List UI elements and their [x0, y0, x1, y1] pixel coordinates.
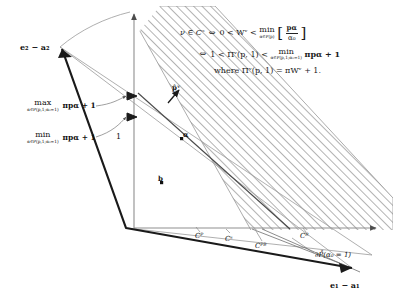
label-cone-r: Cᴿ	[300, 233, 309, 240]
formula-l1-mid: 0 < Wᵛ <	[219, 28, 256, 37]
min-operator: min α∈P(p,1;α₀=1)	[27, 131, 59, 144]
min-expression: πpα + 1	[63, 134, 96, 142]
annotation-min: min α∈P(p,1;α₀=1) πpα + 1	[27, 131, 96, 144]
label-e2-minus-a2: e₂ − a₂	[20, 43, 50, 51]
bracket-close: ]	[300, 27, 306, 39]
axis-tick-label-one: 1	[116, 133, 121, 141]
label-alpha: α	[183, 131, 188, 138]
formula-l2-iff: ⇔	[198, 49, 208, 58]
max-operator: max α∈P(p,1;α₀=1)	[27, 99, 59, 112]
arrowhead-e1	[339, 263, 352, 273]
max-expression: πpα + 1	[63, 102, 96, 110]
bracket-open: [	[277, 27, 283, 39]
label-e1-minus-a1: e₁ − a₁	[330, 281, 360, 289]
figure-canvas: e₂ − a₂ e₁ − a₁ 1 p̂ᵛ α b Cᴾ Cˢ Cᴾᴮ Cᴿ ∂…	[0, 0, 393, 306]
formula-line-2: ⇔ 1 < Πᵛ(p, 1) < min α∈P(p,1;α₀=1) πpα +…	[198, 48, 390, 61]
formula-l1-min-operator: min α∈P(p)	[259, 26, 274, 39]
formula-l2-expr: πpα + 1	[305, 48, 340, 58]
formula-line-1: ν ∈ Cˢ ⇔ 0 < Wᵛ < min α∈P(p) [ pα α₀ ]	[180, 24, 390, 43]
formula-l1-iff: ⇔	[207, 28, 217, 37]
formula-line-3: where Πᵛ(p, 1) = πWᵛ + 1.	[214, 66, 390, 75]
label-boundary-p: ∂P̊(α₀ = 1)	[315, 252, 351, 259]
label-cone-s: Cˢ	[225, 236, 233, 243]
formula-block: ν ∈ Cˢ ⇔ 0 < Wᵛ < min α∈P(p) [ pα α₀ ] ⇔…	[176, 24, 390, 75]
axis-annotation-arrows	[127, 92, 137, 121]
annotation-leader-curves	[96, 96, 126, 137]
formula-l2-min-operator: min α∈P(p,1;α₀=1)	[270, 48, 302, 61]
point-markers	[160, 137, 183, 184]
label-p-hat: p̂ᵛ	[172, 84, 180, 91]
annotation-max: max α∈P(p,1;α₀=1) πpα + 1	[27, 99, 96, 112]
label-cone-pb: Cᴾᴮ	[255, 243, 267, 250]
formula-l1-lhs: ν ∈ Cˢ	[180, 28, 205, 37]
formula-l2-mid: 1 < Πᵛ(p, 1) <	[210, 49, 268, 58]
fraction-p-alpha-over-alpha0: pα α₀	[286, 24, 298, 43]
label-cone-p: Cᴾ	[195, 233, 203, 240]
label-b: b	[158, 175, 163, 182]
